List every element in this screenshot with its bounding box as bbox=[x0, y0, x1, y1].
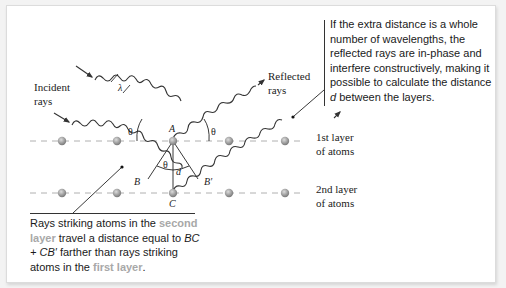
layer-1-label-line2: of atoms bbox=[316, 144, 354, 158]
reflected-label-line1: Reflected bbox=[268, 69, 310, 83]
callout-bottom-t2: travel a distance equal to bbox=[56, 232, 184, 244]
theta-right: θ bbox=[211, 126, 216, 137]
point-a-label: A bbox=[169, 123, 175, 134]
layer-2-label-line1: 2nd layer bbox=[316, 182, 357, 196]
reflected-ray-bottom bbox=[173, 120, 282, 192]
theta-bottom: θ bbox=[163, 159, 168, 170]
callout-bottom-t4: . bbox=[143, 261, 146, 273]
theta-left: θ bbox=[128, 126, 133, 137]
callout-top-text: If the extra distance is a whole number … bbox=[330, 17, 500, 104]
point-c-label: C bbox=[169, 198, 176, 209]
point-b-label: B bbox=[134, 176, 140, 187]
incident-rays-label: Incident rays bbox=[34, 80, 70, 108]
callout-bottom-rule bbox=[30, 213, 195, 214]
callout-top-post: between the layers. bbox=[336, 91, 434, 103]
reflected-ray-bottom-arrow bbox=[334, 112, 340, 118]
point-b-prime-label: B′ bbox=[204, 176, 212, 187]
callout-bottom-t1: Rays striking atoms in the bbox=[30, 217, 159, 229]
wavelength-symbol: λ bbox=[118, 82, 122, 93]
callout-bottom-text: Rays striking atoms in the second layer … bbox=[30, 216, 205, 274]
reflected-rays-label: Reflected rays bbox=[268, 69, 310, 97]
layer-2-label-line2: of atoms bbox=[316, 196, 357, 210]
spacing-d-label: d bbox=[176, 166, 181, 177]
incident-ray-top-arrow bbox=[76, 66, 92, 77]
reflected-label-line2: rays bbox=[268, 83, 310, 97]
callout-top-pre: If the extra distance is a whole number … bbox=[330, 18, 491, 88]
highlight-first-layer: first layer bbox=[93, 261, 143, 273]
layer-1-label: 1st layer of atoms bbox=[316, 130, 354, 158]
incident-ray-top bbox=[95, 75, 181, 101]
incident-label-line1: Incident bbox=[34, 80, 70, 94]
layer-2-label: 2nd layer of atoms bbox=[316, 182, 357, 210]
reflected-ray-top-arrow bbox=[258, 80, 264, 85]
incident-label-line2: rays bbox=[34, 94, 70, 108]
incident-ray-bottom-arrow bbox=[54, 113, 69, 122]
layer-1-label-line1: 1st layer bbox=[316, 130, 354, 144]
callout-top-bar bbox=[324, 20, 325, 106]
